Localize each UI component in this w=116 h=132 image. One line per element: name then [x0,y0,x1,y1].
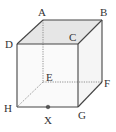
cube-diagram: A B C D E F G H X [0,0,116,132]
label-d: D [5,38,13,50]
label-a: A [38,6,46,18]
label-e: E [46,71,53,83]
point-x-marker [46,105,50,109]
label-x: X [44,114,52,126]
label-h: H [4,102,12,114]
label-b: B [100,6,107,18]
label-f: F [104,77,110,89]
label-g: G [78,109,86,121]
label-c: C [69,31,76,43]
